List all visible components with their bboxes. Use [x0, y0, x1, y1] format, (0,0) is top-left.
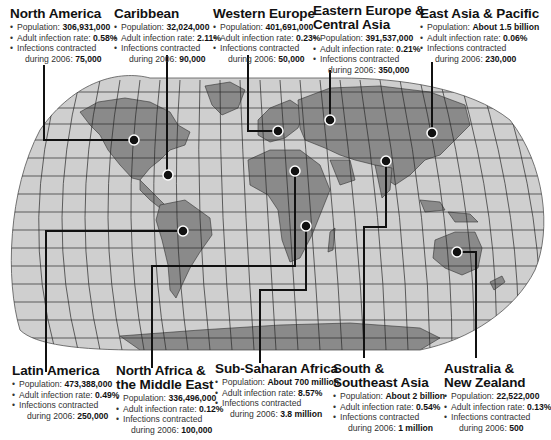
rate-line: Adult infection rate: 8.57% [215, 388, 339, 399]
population-line: Population: About 2 billion [333, 391, 445, 402]
rate-line: Adult infection rate: 0.23% [213, 33, 320, 44]
infections-value-line: during 2006: 3.8 million [215, 409, 339, 420]
population-line: Population: About 1.5 billion [420, 22, 539, 33]
infections-line: Infections contracted [116, 414, 223, 425]
region-title: Western Europe [213, 7, 320, 21]
infections-line: Infections contracted [420, 43, 539, 54]
region-title-line2: Central Asia [313, 18, 425, 32]
infections-value-line: during 2006: 1 million [333, 423, 445, 434]
infections-line: Infections contracted [12, 400, 119, 411]
rate-line: Adult infection rate: 0.58% [10, 33, 117, 44]
population-line: Population: 306,931,000 [10, 22, 117, 33]
region-north-africa-middle-east: North Africa & the Middle East Populatio… [116, 364, 223, 435]
population-line: Population: 473,388,000 [12, 379, 119, 390]
marker-eastern-europe [325, 115, 335, 125]
infections-value-line: during 2006: 75,000 [10, 54, 117, 65]
region-title: South & [333, 362, 445, 376]
marker-north-africa [290, 166, 300, 176]
region-title-line2: Southeast Asia [333, 376, 445, 390]
infections-line: Infections contracted [10, 43, 117, 54]
region-australia-new-zealand: Australia & New Zealand Population: 22,5… [444, 362, 551, 433]
population-line: Population: 401,691,000 [213, 22, 320, 33]
region-title: East Asia & Pacific [420, 7, 539, 21]
region-caribbean: Caribbean Population: 32,024,000 Adult i… [114, 7, 221, 64]
region-east-asia-pacific: East Asia & Pacific Population: About 1.… [420, 7, 539, 64]
population-line: Population: 32,024,000 [114, 22, 221, 33]
region-title: Australia & [444, 362, 551, 376]
population-line: Population: 391,537,000 [313, 33, 425, 44]
rate-line: Adult infection rate: 0.13% [444, 402, 551, 413]
rate-line: Adult infection rate: 2.11% [114, 33, 221, 44]
marker-western-europe [273, 126, 283, 136]
infections-value-line: during 2006: 230,000 [420, 54, 539, 65]
rate-line: Adult infection rate: 0.12% [116, 404, 223, 415]
infections-value-line: during 2006: 350,000 [313, 65, 425, 76]
infections-value-line: during 2006: 50,000 [213, 54, 320, 65]
rate-line: Adult infection rate: 0.49% [12, 390, 119, 401]
region-title-line2: New Zealand [444, 376, 551, 390]
infections-value-line: during 2006: 90,000 [114, 54, 221, 65]
region-sub-saharan-africa: Sub-Saharan Africa Population: About 700… [215, 362, 339, 419]
infections-value-line: during 2006: 100,000 [116, 425, 223, 436]
infections-line: Infections contracted [444, 412, 551, 423]
region-north-america: North America Population: 306,931,000 Ad… [10, 7, 117, 64]
region-title: Caribbean [114, 7, 221, 21]
region-eastern-europe-central-asia: Eastern Europe & Central Asia Population… [313, 4, 425, 75]
rate-line: Adult infection rate: 0.06% [420, 33, 539, 44]
infections-line: Infections contracted [313, 54, 425, 65]
region-south-southeast-asia: South & Southeast Asia Population: About… [333, 362, 445, 433]
infections-line: Infections contracted [333, 412, 445, 423]
infections-value-line: during 2006: 500 [444, 423, 551, 434]
rate-line: Adult infection rate: 0.21% [313, 44, 425, 55]
marker-north-america [129, 135, 139, 145]
population-line: Population: 22,522,000 [444, 391, 551, 402]
population-line: Population: About 700 million [215, 377, 339, 388]
rate-line: Adult infection rate: 0.54% [333, 402, 445, 413]
marker-south-asia [381, 156, 391, 166]
infections-line: Infections contracted [213, 43, 320, 54]
infections-line: Infections contracted [215, 398, 339, 409]
region-title: Sub-Saharan Africa [215, 362, 339, 376]
region-western-europe: Western Europe Population: 401,691,000 A… [213, 7, 320, 64]
marker-latin-america [178, 226, 188, 236]
population-line: Population: 336,496,000 [116, 393, 223, 404]
marker-caribbean [163, 170, 173, 180]
infections-value-line: during 2006: 250,000 [12, 411, 119, 422]
region-title: Latin America [12, 364, 119, 378]
region-title: North Africa & [116, 364, 223, 378]
infections-line: Infections contracted [114, 43, 221, 54]
region-latin-america: Latin America Population: 473,388,000 Ad… [12, 364, 119, 421]
region-title: North America [10, 7, 117, 21]
region-title: Eastern Europe & [313, 4, 425, 18]
region-title-line2: the Middle East [116, 378, 223, 392]
marker-sub-saharan [301, 221, 311, 231]
marker-east-asia [427, 128, 437, 138]
marker-australia [452, 247, 462, 257]
